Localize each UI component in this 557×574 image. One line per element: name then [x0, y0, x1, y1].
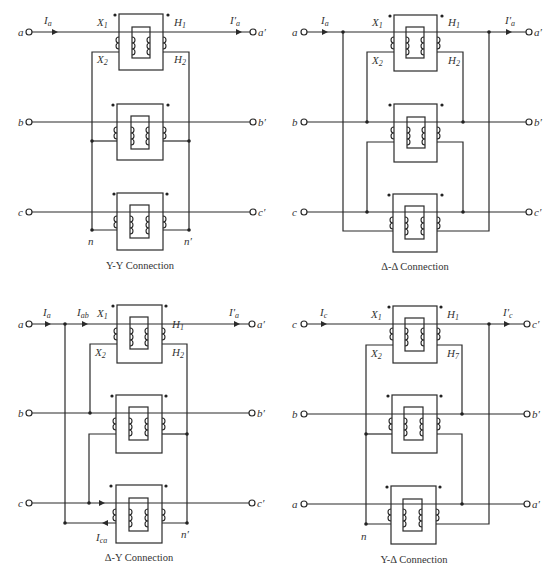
neutral-left-label: n — [88, 235, 94, 247]
terminal-in-2[interactable] — [26, 410, 32, 416]
terminal-out-2[interactable] — [250, 119, 256, 125]
transformer-2 — [386, 394, 442, 453]
terminal-out-2[interactable] — [526, 119, 532, 125]
transformer-1 — [387, 305, 442, 363]
panel-caption: Δ-Y Connection — [105, 552, 174, 563]
terminal-in-1[interactable] — [301, 321, 307, 327]
polarity-dot-icon — [113, 13, 116, 16]
panel-caption: Y-Y Connection — [106, 260, 175, 271]
terminal-out-2[interactable] — [524, 411, 530, 417]
terminal-out-3[interactable] — [524, 501, 530, 507]
transformer-3 — [387, 193, 443, 252]
terminal-out-2[interactable] — [249, 410, 255, 416]
current-arrow-icon — [45, 321, 51, 327]
terminal-out-1[interactable] — [524, 321, 530, 327]
output-label-3: c′ — [258, 206, 266, 218]
output-label-1: a′ — [257, 318, 266, 330]
x1-label: X1 — [370, 308, 382, 322]
input-label-1: a — [18, 26, 24, 38]
h2-label: H2 — [173, 53, 186, 67]
output-label-2: b′ — [258, 116, 267, 128]
polarity-dot-icon — [112, 192, 115, 195]
polarity-dot-icon — [165, 192, 168, 195]
input-label-2: b — [292, 116, 298, 128]
transformer-2 — [388, 103, 443, 162]
input-label-2: b — [18, 116, 24, 128]
transformer-3 — [385, 485, 441, 544]
x2-label: X2 — [94, 346, 106, 360]
transformer-2 — [110, 394, 167, 453]
input-label-2: b — [292, 408, 298, 420]
neutral-right-label: n′ — [181, 528, 190, 540]
transformer-1 — [113, 13, 169, 70]
current-arrow-icon — [236, 29, 242, 35]
current-out-label: I′a — [229, 14, 240, 28]
current-in-label: Ia — [43, 14, 52, 28]
input-label-3: c — [18, 206, 23, 218]
terminal-in-3[interactable] — [301, 209, 307, 215]
current-arrow-icon — [52, 29, 58, 35]
terminal-in-1[interactable] — [301, 29, 307, 35]
terminal-in-2[interactable] — [301, 411, 307, 417]
h1-label: H1 — [447, 16, 460, 30]
current-arrow-icon — [99, 500, 105, 506]
transformer-1 — [388, 14, 443, 71]
terminal-out-3[interactable] — [249, 500, 255, 506]
x1-label: X1 — [96, 16, 108, 30]
terminal-in-1[interactable] — [26, 29, 32, 35]
panel-yy: a b c a′ b′ c′ Ia I′a X1 X2 H1 H2 n n′ Y… — [18, 13, 267, 271]
input-label-3: c — [18, 497, 23, 509]
input-label-1: a — [292, 26, 298, 38]
terminal-in-2[interactable] — [26, 119, 32, 125]
h1-label: H1 — [446, 308, 459, 322]
terminal-out-1[interactable] — [249, 321, 255, 327]
panel-caption: Y-Δ Connection — [380, 554, 448, 565]
panel-caption: Δ-Δ Connection — [381, 261, 449, 272]
terminal-in-3[interactable] — [26, 500, 32, 506]
panel-dy: a b c a′ b′ c′ Ia Iab I′a Ica X1 X2 H1 H… — [18, 304, 266, 563]
current-return-label: Ica — [95, 531, 107, 545]
current-out-label: I′a — [504, 14, 515, 28]
current-arrow-icon — [506, 29, 512, 35]
output-label-3: c′ — [257, 497, 265, 509]
output-label-2: b′ — [257, 407, 266, 419]
current-arrow-icon — [234, 321, 240, 327]
polarity-dot-icon — [166, 103, 169, 106]
input-label-1: a — [18, 318, 24, 330]
current-in-label: Ia — [320, 14, 329, 28]
terminal-in-1[interactable] — [26, 321, 32, 327]
current-arrow-icon — [102, 520, 108, 526]
x2-label: X2 — [96, 53, 108, 67]
h1-label: H1 — [173, 16, 186, 30]
output-label-2: b′ — [532, 408, 541, 420]
input-label-1: c — [292, 318, 297, 330]
current-in-label: Ia — [42, 306, 51, 320]
current-mid-label: Iab — [76, 306, 89, 320]
terminal-in-3[interactable] — [26, 209, 32, 215]
current-arrow-icon — [504, 321, 510, 327]
x1-label: X1 — [371, 16, 383, 30]
terminal-out-1[interactable] — [526, 29, 532, 35]
neutral-right-label: n′ — [184, 235, 193, 247]
current-in-label: Ic — [319, 306, 328, 320]
input-label-2: b — [18, 407, 24, 419]
x1-label: X1 — [96, 307, 108, 321]
current-out-label: I′a — [228, 306, 239, 320]
current-arrow-icon — [82, 321, 88, 327]
terminal-out-3[interactable] — [526, 209, 532, 215]
x2-label: X2 — [371, 54, 383, 68]
input-label-3: a — [292, 498, 298, 510]
h1-label: H1 — [171, 318, 184, 332]
current-arrow-icon — [321, 321, 327, 327]
terminal-out-3[interactable] — [250, 209, 256, 215]
terminal-in-3[interactable] — [301, 501, 307, 507]
polarity-dot-icon — [111, 103, 114, 106]
transformer-3 — [109, 484, 167, 543]
panel-dd: a b c a′ b′ c′ Ia I′a X1 X2 H1 H2 Δ-Δ Co… — [292, 14, 543, 272]
output-label-3: c′ — [534, 206, 542, 218]
terminal-in-2[interactable] — [301, 119, 307, 125]
transformer-2 — [111, 103, 169, 160]
terminal-out-1[interactable] — [250, 29, 256, 35]
h2-label: H7 — [446, 347, 460, 361]
x2-label: X2 — [370, 347, 382, 361]
